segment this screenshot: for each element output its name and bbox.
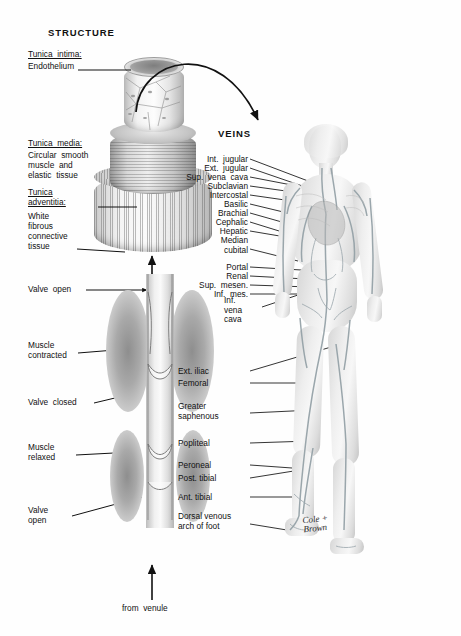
label-tunica-intima-title: Tunica intima: [28, 50, 82, 60]
label-adventitia-line4: tissue [28, 242, 50, 252]
label-dorsal-venous-arch: Dorsal venous arch of foot [178, 512, 231, 531]
label-peroneal: Peroneal [178, 461, 211, 471]
hand-right [367, 296, 382, 322]
illustration-canvas: STRUCTURE VEINS [0, 0, 461, 636]
artist-signature: Cole + Brown [302, 514, 329, 535]
label-tunica-media-line3: elastic tissue [28, 171, 78, 181]
vessel-lumen [130, 60, 178, 74]
label-femoral: Femoral [178, 379, 208, 389]
label-post-tibial: Post. tibial [178, 474, 216, 484]
hair [304, 124, 348, 158]
muscle-contracted-belly-right [170, 290, 214, 412]
label-valve-open-bottom: Valve open [28, 506, 48, 525]
label-ext-iliac: Ext. iliac [178, 367, 209, 377]
leg-right [328, 326, 360, 467]
label-median-cubital: Median cubital [150, 236, 248, 255]
label-from-venule: from venule [122, 604, 168, 614]
vein-segment-relaxed [146, 420, 174, 528]
label-inf-vena-cava: Inf. vena cava [224, 296, 242, 325]
label-popliteal: Popliteal [178, 439, 210, 449]
label-valve-open-top: Valve open [28, 285, 71, 295]
hand-left [275, 292, 290, 318]
label-tunica-media-title: Tunica media: [28, 139, 82, 149]
label-ant-tibial: Ant. tibial [178, 493, 212, 503]
leg-left [293, 326, 325, 459]
abdomen-pelvis [297, 260, 357, 332]
label-muscle-contracted: Muscle contracted [28, 341, 67, 360]
label-muscle-relaxed: Muscle relaxed [28, 443, 55, 462]
foot-right [330, 538, 364, 554]
label-tunica-adventitia-title: Tunica adventitia: [28, 188, 66, 207]
heading-veins: VEINS [218, 128, 251, 139]
label-tunica-intima-sub: Endothelium [28, 62, 74, 72]
muscle-contracted-belly-left [106, 290, 150, 412]
label-valve-closed: Valve closed [28, 398, 77, 408]
lower-leg-right [333, 458, 355, 544]
muscle-relaxed-belly-left [110, 430, 144, 522]
heading-structure: STRUCTURE [48, 27, 115, 38]
label-greater-saphenous: Greater saphenous [178, 402, 219, 421]
